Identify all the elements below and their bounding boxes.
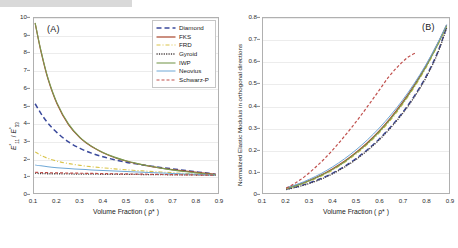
plot-b-yticks: 00.10.20.30.40.50.60.70.8 (229, 17, 259, 194)
tick-mark (257, 17, 260, 18)
tick-mark (257, 39, 260, 40)
legend-label: Neovius (179, 68, 201, 74)
curve-gyroid (286, 28, 446, 190)
legend-swatch-gyroid-icon (156, 50, 176, 58)
legend-item-diamond: Diamond (156, 24, 211, 33)
x-tick-label: 0.8 (422, 197, 431, 204)
curve-fks (286, 25, 446, 188)
plot-b-curves (263, 18, 449, 193)
x-tick-label: 0.7 (168, 197, 177, 204)
y-tick-label: 0.1 (248, 169, 257, 175)
tick-mark (27, 17, 30, 18)
panel-b-tag: (B) (422, 22, 435, 32)
x-tick-label: 0.2 (52, 197, 61, 204)
y-tick-label: 10 (20, 14, 27, 20)
y-tick-label: 1 (24, 173, 27, 179)
legend-label: Diamond (179, 25, 204, 31)
tick-mark (257, 61, 260, 62)
legend-swatch-schwarz-p-icon (156, 76, 176, 84)
x-tick-label: 0.9 (215, 197, 224, 204)
y-tick-label: 0.5 (248, 80, 257, 86)
y-tick-label: 0.3 (248, 124, 257, 130)
tick-mark (27, 105, 30, 106)
curve-neovius (286, 25, 446, 188)
y-tick-label: 2 (24, 155, 27, 161)
y-tick-label: 9 (24, 32, 27, 38)
curve-frd (286, 26, 446, 188)
y-tick-label: 5 (24, 102, 27, 108)
x-tick-label: 0.5 (352, 197, 361, 204)
y-tick-label: 0.2 (248, 147, 257, 153)
plot-b-ylabel: Normalized Elastic Modulus in orthogonal… (236, 44, 243, 186)
tick-mark (257, 83, 260, 84)
tick-mark (27, 123, 30, 124)
plot-b-area (262, 17, 450, 194)
legend-label: FKS (179, 34, 191, 40)
y-tick-label: 0.7 (248, 36, 257, 42)
curve-diamond (286, 27, 446, 189)
tick-mark (27, 52, 30, 53)
y-tick-label: 0 (254, 191, 257, 197)
plot-a-xlabel: Volume Fraction ( ρ* ) (33, 208, 219, 215)
tick-mark (27, 70, 30, 71)
x-tick-label: 0.2 (281, 197, 290, 204)
y-tick-label: 3 (24, 138, 27, 144)
y-tick-label: 0.4 (248, 102, 257, 108)
legend-label: Schwarz-P (179, 77, 209, 83)
tick-mark (257, 105, 260, 106)
x-tick-label: 0.3 (305, 197, 314, 204)
x-tick-label: 0.6 (145, 197, 154, 204)
plot-a-legend: DiamondFKSFRDGyroidIWPNeoviusSchwarz-P (152, 20, 216, 88)
x-tick-label: 0.1 (258, 197, 267, 204)
legend-swatch-diamond-icon (156, 24, 176, 32)
legend-item-frd: FRD (156, 41, 211, 50)
legend-item-gyroid: Gyroid (156, 50, 211, 59)
legend-swatch-iwp-icon (156, 59, 176, 67)
legend-item-iwp: IWP (156, 58, 211, 67)
legend-item-neovius: Neovius (156, 67, 211, 76)
tick-mark (257, 194, 260, 195)
tick-mark (257, 128, 260, 129)
tick-mark (27, 176, 30, 177)
legend-swatch-neovius-icon (156, 67, 176, 75)
x-tick-label: 0.8 (191, 197, 200, 204)
plot-a-yticks: 012345678910 (0, 17, 30, 194)
legend-item-schwarz-p: Schwarz-P (156, 76, 211, 85)
tick-mark (27, 88, 30, 89)
y-tick-label: 6 (24, 85, 27, 91)
x-tick-label: 0.9 (446, 197, 455, 204)
x-tick-label: 0.7 (399, 197, 408, 204)
legend-label: IWP (179, 60, 191, 66)
y-tick-label: 4 (24, 120, 27, 126)
x-tick-label: 0.5 (122, 197, 131, 204)
legend-swatch-fks-icon (156, 33, 176, 41)
panel-a-tag: (A) (47, 24, 60, 34)
x-tick-label: 0.1 (29, 197, 38, 204)
figure-container: (A) 012345678910 0.10.20.30.40.50.60.70.… (0, 0, 458, 248)
y-tick-label: 7 (24, 67, 27, 73)
tick-mark (257, 150, 260, 151)
plot-b-xlabel: Volume Fraction ( ρ* ) (262, 208, 450, 215)
panel-a: (A) 012345678910 0.10.20.30.40.50.60.70.… (0, 0, 229, 248)
x-tick-label: 0.3 (75, 197, 84, 204)
y-tick-label: 8 (24, 49, 27, 55)
x-tick-label: 0.6 (375, 197, 384, 204)
tick-mark (27, 194, 30, 195)
y-tick-label: 0.6 (248, 58, 257, 64)
legend-swatch-frd-icon (156, 41, 176, 49)
tick-mark (27, 141, 30, 142)
y-tick-label: 0 (24, 191, 27, 197)
legend-label: Gyroid (179, 51, 197, 57)
tick-mark (27, 35, 30, 36)
plot-a-ylabel: E*11 / E*33 (9, 122, 20, 150)
legend-item-fks: FKS (156, 33, 211, 42)
tick-mark (27, 159, 30, 160)
x-tick-label: 0.4 (328, 197, 337, 204)
legend-label: FRD (179, 42, 192, 48)
tick-mark (257, 172, 260, 173)
x-tick-label: 0.4 (98, 197, 107, 204)
y-tick-label: 0.8 (248, 14, 257, 20)
